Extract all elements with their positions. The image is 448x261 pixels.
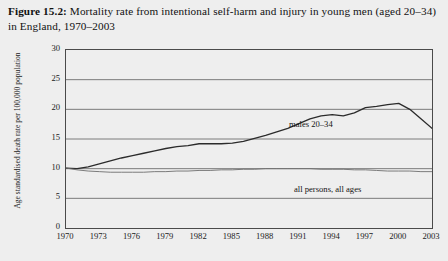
series-annotation-all-persons: all persons, all ages [294, 185, 361, 194]
x-tick-label: 2003 [411, 231, 448, 241]
y-tick-label: 5 [38, 192, 60, 201]
y-tick-label: 25 [38, 74, 60, 83]
x-axis-tick-labels: 1970197319761979198219851988199119941997… [0, 231, 448, 247]
figure-caption-label: Figure 15.2: [8, 5, 67, 17]
figure-container: Figure 15.2: Mortality rate from intenti… [0, 0, 448, 261]
figure-caption: Figure 15.2: Mortality rate from intenti… [8, 4, 440, 34]
y-tick-label: 15 [38, 133, 60, 142]
y-tick-label: 0 [38, 222, 60, 231]
chart-area: Age standardised death rate per 100,000 … [0, 40, 448, 261]
series-annotation-males: males 20–34 [289, 120, 333, 129]
series-lines [66, 103, 432, 172]
y-tick-label: 30 [38, 44, 60, 53]
plot-area: males 20–34 all persons, all ages [65, 49, 433, 229]
figure-caption-text: Mortality rate from intentional self-har… [8, 5, 436, 32]
y-axis-title: Age standardised death rate per 100,000 … [13, 38, 22, 224]
series-line-males [66, 103, 432, 168]
y-tick-label: 10 [38, 163, 60, 172]
gridlines [66, 80, 432, 199]
y-tick-label: 20 [38, 103, 60, 112]
plot-svg [66, 50, 432, 228]
y-axis-tick-labels: 051015202530 [36, 49, 60, 227]
